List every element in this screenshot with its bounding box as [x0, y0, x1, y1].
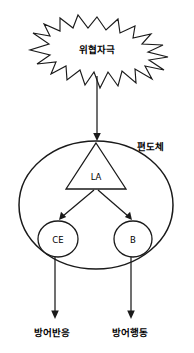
- la-to-ce-connector: [59, 190, 94, 220]
- threat-stimulus-label: 위협자극: [79, 44, 115, 55]
- ce-output-arrowhead: [51, 311, 59, 320]
- la-label: LA: [91, 172, 102, 182]
- b-label: B: [130, 235, 136, 245]
- la-b-arrowhead: [125, 212, 132, 220]
- threat-stimulus-group: 위협자극: [30, 15, 168, 88]
- node-b-group: B: [114, 221, 152, 257]
- node-la-group: LA: [66, 143, 126, 189]
- defensive-behavior-label: 방어행동: [112, 327, 148, 338]
- stimulus-arrowhead: [93, 133, 101, 141]
- ce-output-connector: 방어반응: [34, 257, 70, 338]
- defensive-response-label: 방어반응: [34, 327, 70, 338]
- ce-label: CE: [52, 235, 63, 245]
- la-to-b-connector: [98, 190, 132, 220]
- la-b-arrow-line: [98, 190, 128, 216]
- la-ce-arrow-line: [63, 190, 94, 216]
- b-output-arrowhead: [127, 311, 135, 320]
- diagram-page: 위협자극 편도체 LA CE: [0, 0, 194, 353]
- amygdala-fear-circuit-diagram: 위협자극 편도체 LA CE: [0, 0, 194, 353]
- node-ce-group: CE: [38, 221, 78, 257]
- amygdala-label: 편도체: [137, 141, 164, 152]
- la-ce-arrowhead: [59, 212, 66, 220]
- la-triangle: [66, 143, 126, 189]
- b-output-connector: 방어행동: [112, 257, 148, 338]
